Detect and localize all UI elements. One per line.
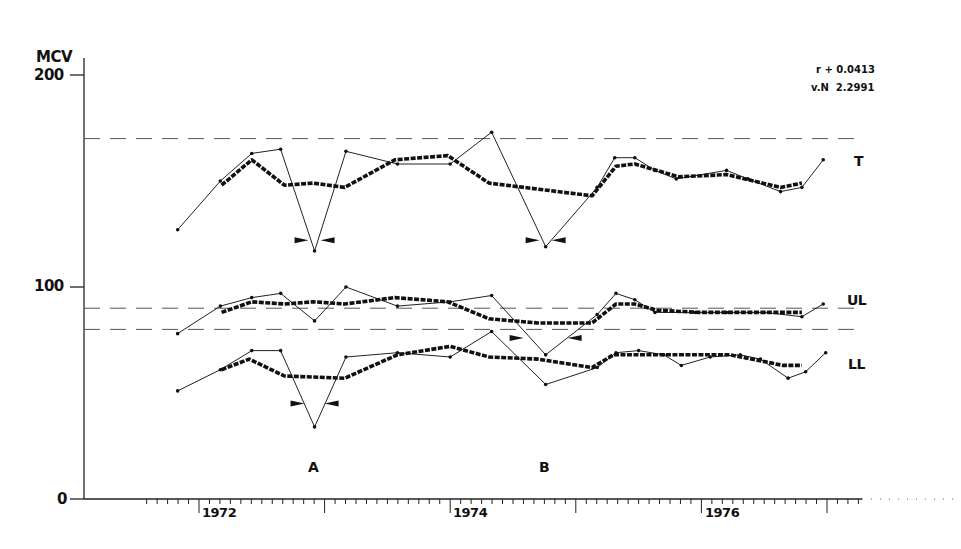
marker-right-icon (321, 237, 335, 243)
data-point (250, 152, 254, 156)
data-point (490, 330, 494, 334)
event-label-a: A (308, 459, 318, 475)
data-point (344, 150, 348, 154)
data-point (448, 355, 452, 359)
data-point (219, 179, 223, 183)
marker-left-icon (510, 335, 524, 341)
data-point (725, 169, 729, 173)
data-point (633, 156, 637, 160)
x-tick-label-1974: 1974 (453, 505, 487, 520)
y-axis-title: MCV (36, 48, 72, 66)
data-point (821, 302, 825, 306)
data-point (490, 294, 494, 298)
data-point (680, 364, 684, 368)
data-point (396, 304, 400, 308)
data-point (779, 190, 783, 194)
x-tick-label-1972: 1972 (202, 505, 236, 520)
series-label-ll: LL (848, 356, 865, 372)
data-point (800, 315, 804, 319)
data-point (396, 162, 400, 166)
series-t-observed (178, 132, 824, 251)
data-point (313, 425, 317, 429)
series-lines (176, 130, 828, 428)
marker-right-icon (552, 237, 566, 243)
data-point (250, 349, 254, 353)
data-point (279, 349, 283, 353)
data-point (448, 162, 452, 166)
x-tick-label-1976: 1976 (705, 505, 739, 520)
data-point (800, 186, 804, 190)
stat-vn: v.N 2.2991 (811, 82, 874, 93)
y-tick-label-200: 200 (34, 66, 64, 84)
marker-left-icon (526, 237, 540, 243)
data-point (614, 292, 618, 296)
data-point (313, 249, 317, 253)
data-point (804, 370, 808, 374)
data-point (490, 130, 494, 134)
y-tick-label-100: 100 (34, 277, 64, 295)
data-point (344, 285, 348, 289)
series-ul-smoothed (222, 298, 802, 323)
data-point (824, 351, 828, 355)
series-ul-observed (178, 287, 824, 355)
marker-left-icon (291, 401, 305, 407)
data-point (279, 147, 283, 151)
data-point (176, 332, 180, 336)
reference-lines (84, 139, 860, 330)
marker-right-icon (325, 401, 339, 407)
data-point (219, 304, 223, 308)
series-label-ul: UL (847, 292, 866, 308)
data-point (250, 296, 254, 300)
data-point (637, 349, 641, 353)
data-point (544, 383, 548, 387)
data-point (544, 245, 548, 249)
data-point (633, 298, 637, 302)
event-label-b: B (539, 459, 549, 475)
data-point (313, 319, 317, 323)
data-point (344, 355, 348, 359)
data-point (821, 158, 825, 162)
stat-r: r + 0.0413 (816, 64, 875, 75)
marker-left-icon (295, 237, 309, 243)
data-point (544, 353, 548, 357)
data-point (613, 156, 617, 160)
data-point (176, 389, 180, 393)
data-point (176, 228, 180, 232)
data-point (279, 292, 283, 296)
data-point (786, 376, 790, 380)
series-label-t: T (854, 153, 863, 169)
y-tick-label-0: 0 (57, 490, 67, 508)
series-ll-observed (178, 332, 826, 427)
axes (70, 58, 958, 513)
